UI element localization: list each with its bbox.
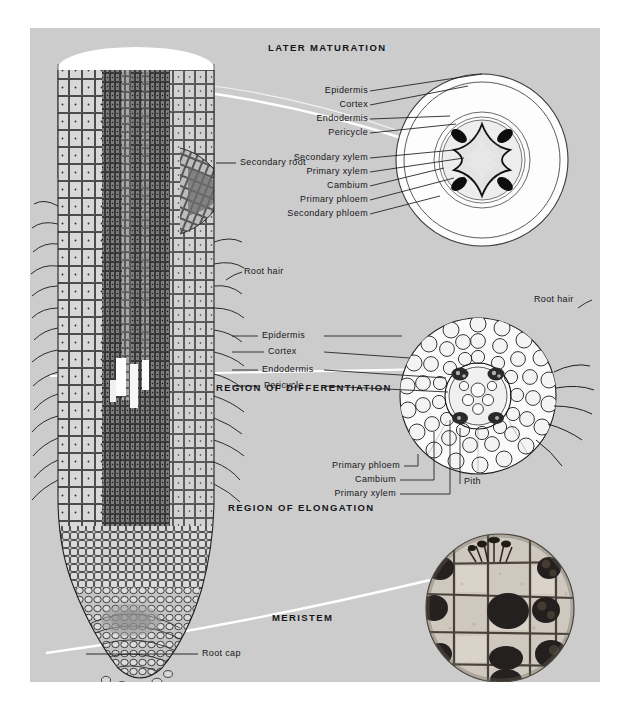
region-label-region-of-elongation: REGION OF ELONGATION <box>228 502 375 513</box>
label-mid-endodermis: Endodermis <box>262 364 314 374</box>
meristem-micrograph <box>420 534 574 682</box>
label-root-hair-right: Root hair <box>534 294 574 304</box>
label-top-pericycle: Pericycle <box>228 127 368 137</box>
leader-root-hair-right <box>578 300 592 308</box>
label-secondary-root: Secondary root <box>240 157 306 167</box>
root-hairs-left <box>31 201 58 500</box>
label-mid-cambium: Cambium <box>282 474 396 484</box>
leader-root-hair-left <box>226 272 242 280</box>
label-root-cap: Root cap <box>202 648 241 658</box>
cross-section-later-maturation <box>370 74 568 246</box>
region-label-region-of-differentiation: REGION OF DIFFERENTIATION <box>216 382 392 393</box>
region-label-later-maturation: LATER MATURATION <box>268 42 386 53</box>
diagram-page: LATER MATURATION REGION OF DIFFERENTIATI… <box>0 0 628 726</box>
label-mid-pith: Pith <box>464 476 481 486</box>
label-root-hair-left: Root hair <box>244 266 284 276</box>
label-top-secondary-phloem: Secondary phloem <box>218 208 368 218</box>
label-top-epidermis: Epidermis <box>228 85 368 95</box>
label-top-cortex: Cortex <box>228 99 368 109</box>
label-mid-primary-xylem: Primary xylem <box>282 488 396 498</box>
label-mid-primary-phloem: Primary phloem <box>282 460 400 470</box>
label-mid-cortex: Cortex <box>268 346 297 356</box>
label-top-cambium: Cambium <box>218 180 368 190</box>
label-top-primary-phloem: Primary phloem <box>218 194 368 204</box>
label-top-endodermis: Endodermis <box>228 113 368 123</box>
label-top-primary-xylem: Primary xylem <box>218 166 368 176</box>
root-anatomy-plate: LATER MATURATION REGION OF DIFFERENTIATI… <box>30 28 600 682</box>
root-hairs-right <box>214 239 244 502</box>
root-longitudinal-section <box>31 47 244 682</box>
label-mid-epidermis: Epidermis <box>262 330 305 340</box>
label-mid-pericycle: Pericycle <box>264 380 304 390</box>
region-label-meristem: MERISTEM <box>272 612 333 623</box>
